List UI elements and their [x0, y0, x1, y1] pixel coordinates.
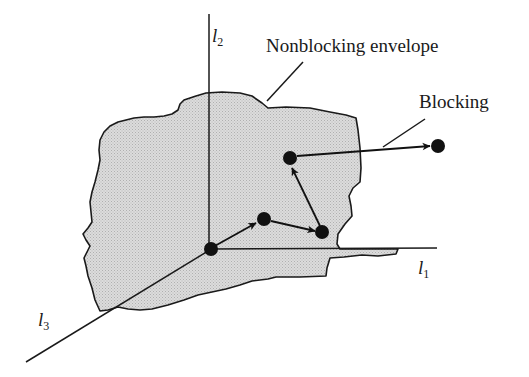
axis-label-l2-subscript: 2 — [217, 35, 223, 49]
axis-label-l3-subscript: 3 — [43, 319, 49, 333]
axis-label-l2: l2 — [212, 26, 223, 45]
point-state-2 — [315, 225, 329, 239]
diagram-canvas — [0, 0, 529, 377]
axis-label-l3: l3 — [38, 310, 49, 329]
point-state-3 — [283, 151, 297, 165]
figure-container: l2 l1 l3 Nonblocking envelope Blocking — [0, 0, 529, 377]
axis-l1-line — [209, 248, 437, 249]
nonblocking-envelope-region — [83, 92, 398, 311]
annotation-blocking: Blocking — [419, 92, 489, 111]
axis-label-l1-subscript: 1 — [423, 267, 429, 281]
point-origin — [204, 242, 218, 256]
leader-line-nonblocking-envelope — [267, 62, 303, 101]
annotation-nonblocking-envelope: Nonblocking envelope — [266, 36, 439, 55]
point-blocking-state — [431, 139, 445, 153]
point-state-1 — [257, 212, 271, 226]
leader-line-blocking — [383, 119, 425, 147]
axis-label-l1: l1 — [418, 258, 429, 277]
